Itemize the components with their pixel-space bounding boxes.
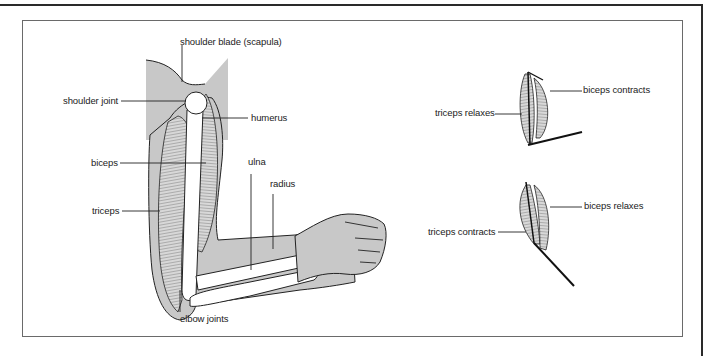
label-shoulder-joint: shoulder joint <box>63 95 118 106</box>
arm-anatomy-illustration <box>0 0 704 356</box>
label-triceps-contracts: triceps contracts <box>428 226 495 237</box>
label-ulna: ulna <box>248 156 266 167</box>
label-shoulder-blade: shoulder blade (scapula) <box>180 36 282 47</box>
label-biceps: biceps <box>91 157 118 168</box>
label-humerus: humerus <box>251 112 287 123</box>
label-biceps-contracts: biceps contracts <box>583 84 650 95</box>
label-triceps-relaxes: triceps relaxes <box>435 107 495 118</box>
extended-arm-diagram <box>498 182 582 286</box>
label-radius: radius <box>270 178 295 189</box>
label-biceps-relaxes: biceps relaxes <box>584 200 643 211</box>
flexed-arm-diagram <box>495 72 582 145</box>
label-elbow-joints: elbow joints <box>180 313 228 324</box>
fist <box>295 214 386 282</box>
label-triceps: triceps <box>92 205 119 216</box>
